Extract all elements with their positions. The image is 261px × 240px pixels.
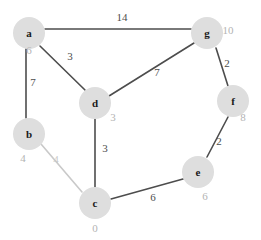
node-distance-c: 0 [92,223,98,234]
graph-node-d[interactable]: d [79,87,111,119]
edge-weight-b-c: 4 [53,154,59,165]
node-distance-g: 10 [223,25,234,36]
graph-node-label-a: a [26,28,32,39]
node-distance-e: 6 [202,191,208,202]
graph-edge-b-c [41,144,82,192]
graph-node-label-e: e [196,167,201,178]
edge-weight-a-d: 3 [67,51,73,62]
graph-node-b[interactable]: b [13,118,45,150]
edge-weight-c-e: 6 [150,192,156,203]
node-distance-f: 8 [240,112,246,123]
graph-node-label-b: b [26,129,32,140]
graph-edge-d-g [109,43,194,96]
graph-node-g[interactable]: g [191,17,223,49]
node-distance-b: 4 [20,153,26,164]
graph-node-label-d: d [92,98,98,109]
graph-node-label-f: f [231,96,235,107]
graph-edge-c-e [111,179,183,199]
edge-weight-a-g: 14 [117,12,128,23]
edge-weight-d-g: 7 [154,67,160,78]
graph-diagram: abcdefg 147372236464036810 [0,0,261,240]
node-distance-a: 6 [26,45,32,56]
graph-node-e[interactable]: e [182,156,214,188]
graph-edge-a-d [40,46,85,90]
graph-node-c[interactable]: c [79,187,111,219]
edge-weight-g-f: 2 [224,58,230,69]
graph-node-label-c: c [93,198,98,209]
edge-weight-a-b: 7 [30,77,36,88]
node-distance-d: 3 [110,112,116,123]
edge-weight-d-c: 3 [102,143,108,154]
graph-node-label-g: g [204,28,210,39]
edge-weight-f-e: 2 [216,136,222,147]
